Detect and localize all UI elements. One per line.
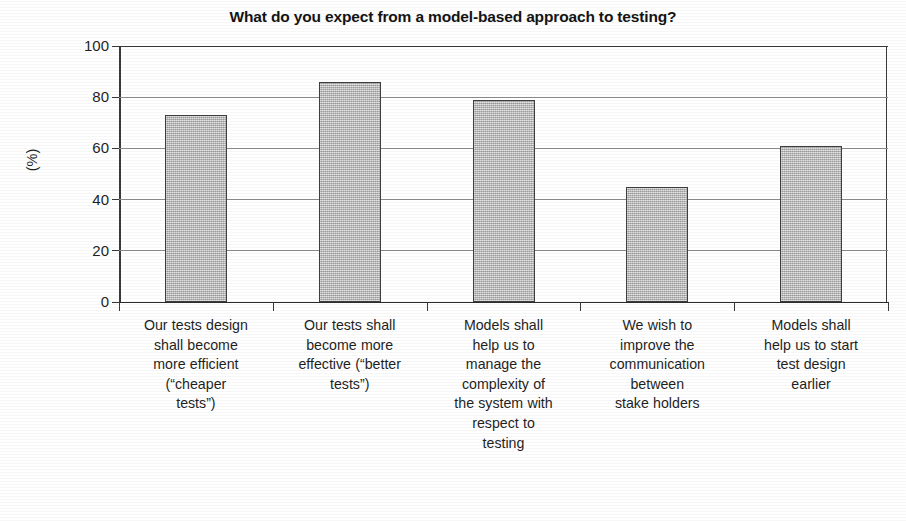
gridline-100 (119, 46, 888, 47)
x-tick-mark (273, 302, 274, 311)
x-tick-mark (888, 302, 889, 311)
y-tick-mark-100 (112, 46, 119, 47)
plot-area (119, 46, 888, 302)
x-category-label: We wish toimprove thecommunicationbetwee… (576, 316, 738, 414)
bar (165, 115, 227, 302)
y-tick-label-60: 60 (49, 140, 109, 155)
right-axis-line (886, 46, 887, 302)
x-category-label: Our tests shallbecome moreeffective (“be… (269, 316, 431, 394)
y-tick-label-100: 100 (49, 38, 109, 53)
y-tick-label-20: 20 (49, 243, 109, 258)
bar-chart: What do you expect from a model-based ap… (0, 0, 906, 521)
x-category-label: Models shallhelp us to starttest designe… (730, 316, 892, 394)
y-tick-mark-60 (112, 148, 119, 149)
x-tick-mark (734, 302, 735, 311)
y-tick-mark-20 (112, 250, 119, 251)
x-tick-mark (427, 302, 428, 311)
bar (780, 146, 842, 302)
y-tick-mark-80 (112, 97, 119, 98)
bar (473, 100, 535, 302)
x-axis-category-labels: Our tests designshall becomemore efficie… (119, 316, 888, 516)
chart-title: What do you expect from a model-based ap… (0, 8, 906, 26)
x-category-label: Models shallhelp us tomanage thecomplexi… (423, 316, 585, 453)
gridline-80 (119, 97, 888, 98)
x-tick-mark (580, 302, 581, 311)
y-tick-label-40: 40 (49, 192, 109, 207)
y-tick-mark-0 (112, 302, 119, 303)
y-axis-line (119, 46, 121, 302)
y-axis-label: (%) (24, 134, 40, 186)
y-tick-label-80: 80 (49, 89, 109, 104)
y-tick-mark-40 (112, 199, 119, 200)
bar (626, 187, 688, 302)
x-tick-mark (119, 302, 120, 311)
y-tick-label-0: 0 (49, 294, 109, 309)
bar (319, 82, 381, 302)
x-category-label: Our tests designshall becomemore efficie… (115, 316, 277, 414)
